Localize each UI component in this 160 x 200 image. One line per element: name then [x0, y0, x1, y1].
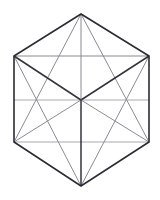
hexagon-figure-canvas: [0, 0, 160, 200]
